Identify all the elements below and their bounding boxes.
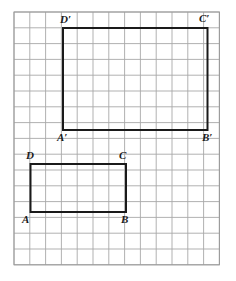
vertex-label-a: A — [22, 214, 29, 225]
vertex-label-b: B — [121, 214, 128, 225]
vertex-label-c: C — [119, 150, 126, 161]
geometry-figure: DCABD′C′A′B′ — [0, 0, 236, 281]
grid-lines — [14, 12, 219, 265]
shape-layer — [31, 28, 208, 212]
rectangle-abcd — [31, 164, 127, 212]
vertex-label-a-prime: A′ — [57, 132, 67, 143]
vertex-label-c-prime: C′ — [199, 13, 209, 24]
grid-canvas — [0, 0, 236, 281]
vertex-label-d-prime: D′ — [60, 14, 71, 25]
vertex-label-b-prime: B′ — [202, 132, 212, 143]
vertex-label-d: D — [26, 150, 34, 161]
